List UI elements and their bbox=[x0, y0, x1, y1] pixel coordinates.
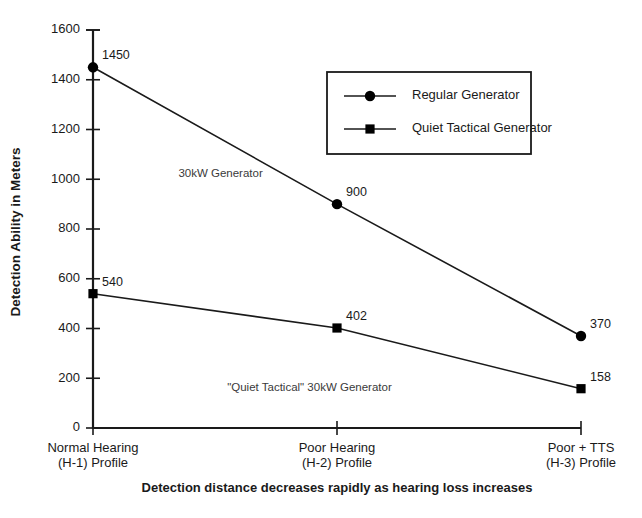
y-tick-label: 600 bbox=[58, 270, 80, 285]
y-tick-label: 400 bbox=[58, 320, 80, 335]
data-value-label: 158 bbox=[590, 370, 611, 384]
y-tick-label: 1200 bbox=[51, 121, 80, 136]
chart-container: 02004006008001000120014001600 Normal Hea… bbox=[0, 0, 642, 518]
data-point-marker-circle[interactable] bbox=[576, 331, 586, 341]
y-tick-label: 1400 bbox=[51, 71, 80, 86]
plot-annotation: "Quiet Tactical" 30kW Generator bbox=[227, 381, 392, 393]
legend-box bbox=[327, 72, 531, 154]
y-tick-label: 0 bbox=[73, 419, 80, 434]
y-tick-label: 200 bbox=[58, 370, 80, 385]
data-point-marker-square[interactable] bbox=[576, 384, 585, 393]
y-tick-label: 1000 bbox=[51, 171, 80, 186]
data-value-label: 402 bbox=[346, 309, 367, 323]
data-value-label: 540 bbox=[102, 275, 123, 289]
detection-ability-line-chart: 02004006008001000120014001600 Normal Hea… bbox=[0, 0, 642, 518]
data-point-marker-square[interactable] bbox=[332, 323, 341, 332]
x-category-label: Poor + TTS(H-3) Profile bbox=[546, 440, 616, 470]
data-point-marker-circle[interactable] bbox=[88, 62, 98, 72]
data-point-marker-square[interactable] bbox=[88, 289, 97, 298]
y-tick-label: 800 bbox=[58, 220, 80, 235]
x-category-label: Normal Hearing(H-1) Profile bbox=[47, 440, 138, 470]
data-value-label: 900 bbox=[346, 185, 367, 199]
y-axis-title: Detection Ability in Meters bbox=[8, 147, 23, 316]
data-point-marker-circle[interactable] bbox=[332, 199, 342, 209]
data-value-label: 370 bbox=[590, 317, 611, 331]
legend-label-1: Regular Generator bbox=[412, 87, 520, 102]
x-axis-caption: Detection distance decreases rapidly as … bbox=[142, 480, 533, 495]
y-tick-label: 1600 bbox=[51, 21, 80, 36]
chart-legend[interactable]: Regular GeneratorQuiet Tactical Generato… bbox=[327, 72, 553, 154]
legend-marker-square-icon bbox=[365, 124, 374, 133]
legend-label-2: Quiet Tactical Generator bbox=[412, 120, 553, 135]
x-category-label: Poor Hearing(H-2) Profile bbox=[299, 440, 376, 470]
data-value-label: 1450 bbox=[102, 48, 130, 62]
legend-marker-circle-icon bbox=[365, 91, 375, 101]
plot-annotation: 30kW Generator bbox=[178, 167, 263, 179]
